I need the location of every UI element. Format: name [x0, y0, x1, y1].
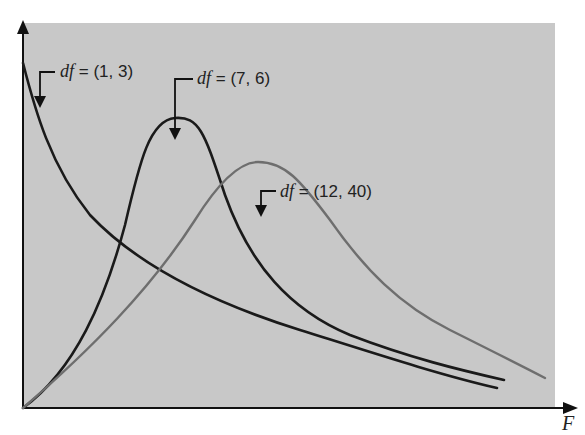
annotation-df-value: = (7, 6) [211, 69, 270, 88]
annotation-df-value: = (12, 40) [294, 182, 372, 201]
annotation-df-value: = (1, 3) [74, 62, 133, 81]
svg-text:df = (12, 40): df = (12, 40) [280, 181, 372, 201]
svg-text:df = (1, 3): df = (1, 3) [60, 61, 133, 81]
x-axis-title: F [561, 412, 575, 434]
f-distribution-chart: F df = (1, 3) df = (7, 6) df = (12, 40) [0, 0, 585, 435]
svg-text:df = (7, 6): df = (7, 6) [197, 68, 270, 88]
